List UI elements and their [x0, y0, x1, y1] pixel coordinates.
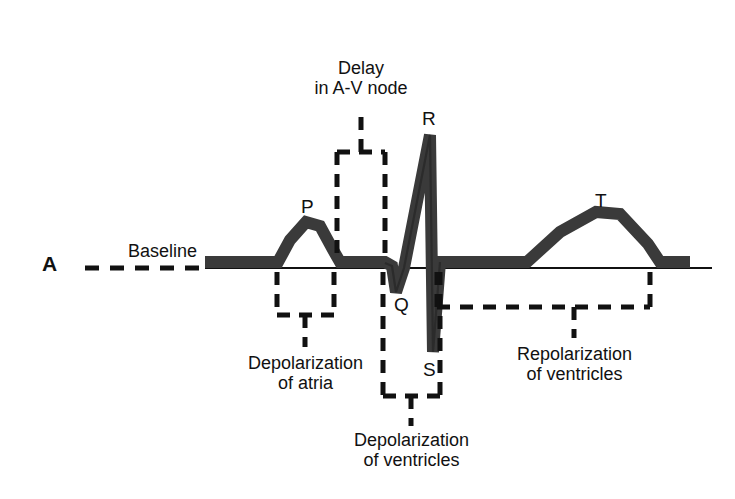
panel-label-a: A [42, 252, 57, 276]
ecg-trace-line [205, 135, 690, 352]
bracket-atrial-depolarization [277, 272, 334, 347]
wave-label-s: S [423, 359, 436, 380]
bracket-ventricular-repolarization [437, 272, 650, 338]
ecg-figure: A Baseline P Q R S T Delay in A-V node D… [0, 0, 735, 499]
wave-label-r: R [422, 108, 436, 129]
bracket-av-delay [337, 116, 385, 262]
baseline-label: Baseline [128, 241, 197, 261]
wave-label-q: Q [394, 294, 409, 315]
annotation-ventricular-repolarization: Repolarization of ventricles [492, 344, 657, 384]
annotation-atrial-depolarization: Depolarization of atria [223, 353, 388, 393]
wave-label-p: P [301, 196, 314, 217]
annotation-av-delay: Delay in A-V node [281, 58, 441, 98]
annotation-ventricular-depolarization: Depolarization of ventricles [329, 430, 494, 470]
wave-label-t: T [595, 190, 607, 211]
